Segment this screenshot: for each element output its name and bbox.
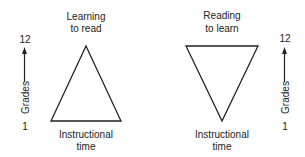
right-axis-bottom: 1 [275, 121, 295, 133]
right-axis-label: Grades [280, 78, 291, 118]
left-base-line1: Instructional [46, 129, 126, 141]
right-title-line2: to learn [192, 23, 252, 35]
left-axis-bottom: 1 [15, 121, 35, 133]
learning-to-read-triangle [51, 46, 121, 121]
right-axis-top: 12 [275, 33, 295, 45]
right-base-line2: time [182, 141, 262, 153]
right-base-line1: Instructional [182, 129, 262, 141]
left-title-line2: to read [56, 23, 116, 35]
left-axis-label: Grades [20, 78, 31, 118]
left-title-line1: Learning [56, 11, 116, 23]
left-axis-top: 12 [15, 34, 35, 46]
right-title-line1: Reading [192, 10, 252, 22]
reading-to-learn-triangle [186, 46, 258, 121]
left-base-line2: time [46, 141, 126, 153]
